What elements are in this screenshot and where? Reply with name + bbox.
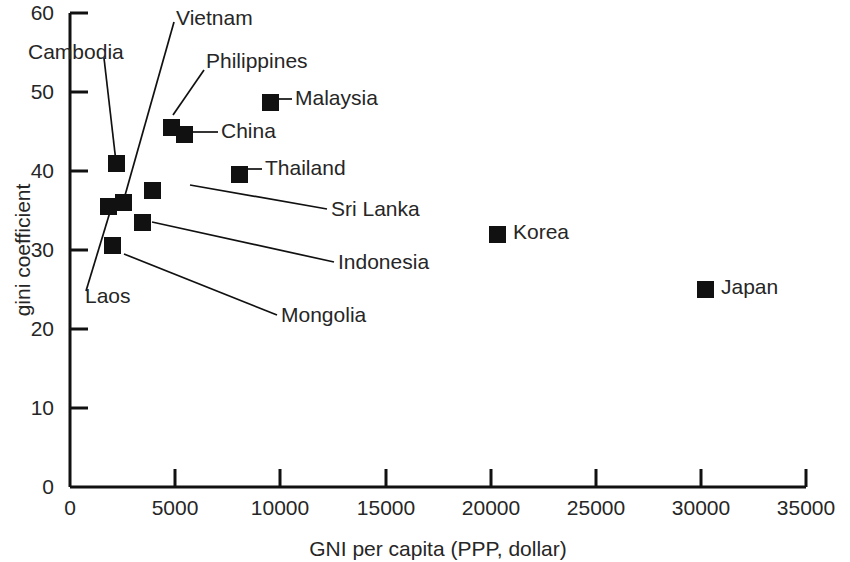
point-label-malaysia: Malaysia bbox=[295, 87, 378, 108]
marker-korea bbox=[489, 226, 506, 243]
leader-line-philippines bbox=[173, 70, 204, 115]
leader-line-mongolia bbox=[124, 254, 277, 315]
marker-china bbox=[176, 126, 193, 143]
x-axis-title: GNI per capita (PPP, dollar) bbox=[309, 538, 567, 559]
point-label-japan: Japan bbox=[721, 276, 778, 297]
marker-mongolia bbox=[104, 237, 121, 254]
y-tick-label-60: 60 bbox=[16, 2, 54, 23]
marker-thailand bbox=[231, 166, 248, 183]
y-axis-ticks bbox=[70, 13, 88, 408]
marker-japan bbox=[697, 281, 714, 298]
scatter-chart: 60 50 40 30 20 10 0 0 5000 10000 15000 2… bbox=[0, 0, 850, 562]
x-tick-label-20000: 20000 bbox=[462, 497, 520, 518]
x-tick-label-0: 0 bbox=[64, 497, 76, 518]
x-tick-label-35000: 35000 bbox=[777, 497, 835, 518]
x-tick-label-15000: 15000 bbox=[357, 497, 415, 518]
marker-cambodia bbox=[108, 155, 125, 172]
x-axis-ticks bbox=[175, 469, 806, 487]
marker-indonesia bbox=[134, 214, 151, 231]
leader-line-cambodia bbox=[104, 58, 116, 162]
point-label-korea: Korea bbox=[513, 221, 569, 242]
point-label-srilanka: Sri Lanka bbox=[331, 198, 420, 219]
marker-malaysia bbox=[262, 94, 279, 111]
y-tick-label-0: 0 bbox=[16, 476, 54, 497]
x-tick-label-10000: 10000 bbox=[251, 497, 309, 518]
leader-line-vietnam bbox=[122, 22, 174, 206]
point-label-thailand: Thailand bbox=[265, 157, 346, 178]
point-label-laos: Laos bbox=[85, 285, 131, 306]
point-label-vietnam: Vietnam bbox=[176, 7, 253, 28]
x-tick-label-25000: 25000 bbox=[567, 497, 625, 518]
point-label-philippines: Philippines bbox=[206, 50, 308, 71]
y-tick-label-50: 50 bbox=[16, 81, 54, 102]
point-label-mongolia: Mongolia bbox=[281, 304, 366, 325]
x-tick-label-5000: 5000 bbox=[152, 497, 199, 518]
point-label-cambodia: Cambodia bbox=[28, 41, 124, 62]
leader-line-indonesia bbox=[152, 222, 334, 262]
leader-line-srilanka bbox=[190, 185, 327, 209]
point-label-china: China bbox=[221, 120, 276, 141]
y-axis-title: gini coefficient bbox=[11, 165, 35, 335]
axis-lines bbox=[70, 13, 806, 487]
x-tick-label-30000: 30000 bbox=[672, 497, 730, 518]
marker-vietnam bbox=[115, 194, 132, 211]
marker-laos bbox=[100, 198, 117, 215]
marker-srilanka bbox=[144, 182, 161, 199]
y-tick-label-10: 10 bbox=[16, 397, 54, 418]
point-label-indonesia: Indonesia bbox=[338, 251, 429, 272]
